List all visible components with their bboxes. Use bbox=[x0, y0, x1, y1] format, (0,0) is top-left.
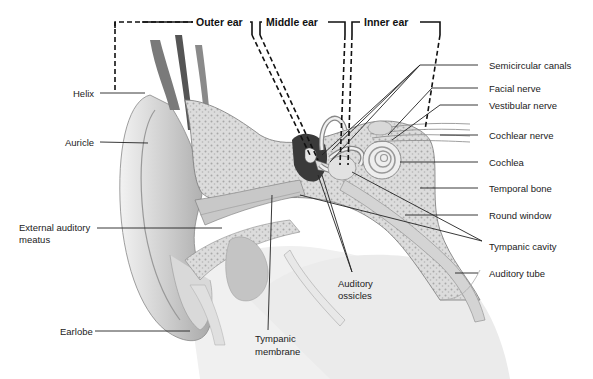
section-label-middle-ear: Middle ear bbox=[264, 16, 320, 28]
label-round-window: Round window bbox=[489, 210, 551, 221]
ear-anatomy-diagram: Outer ear Middle ear Inner ear Helix Aur… bbox=[0, 0, 593, 379]
label-cochlear-nerve: Cochlear nerve bbox=[489, 130, 553, 141]
section-label-outer-ear: Outer ear bbox=[194, 16, 245, 28]
label-auditory-ossicles-line2: ossicles bbox=[338, 290, 372, 301]
label-external-auditory-meatus-line2: meatus bbox=[19, 234, 50, 245]
label-external-auditory-meatus-line1: External auditory bbox=[19, 222, 90, 233]
label-auditory-tube: Auditory tube bbox=[489, 268, 545, 279]
cochlea-shape bbox=[363, 141, 401, 179]
label-earlobe: Earlobe bbox=[60, 326, 93, 337]
label-auditory-ossicles-line1: Auditory bbox=[338, 278, 373, 289]
section-label-inner-ear: Inner ear bbox=[362, 16, 410, 28]
label-tympanic-membrane-line2: membrane bbox=[255, 346, 300, 357]
label-facial-nerve: Facial nerve bbox=[489, 83, 541, 94]
label-vestibular-nerve: Vestibular nerve bbox=[489, 100, 557, 111]
label-tympanic-membrane-line1: Tympanic bbox=[255, 333, 296, 344]
label-helix: Helix bbox=[73, 88, 94, 99]
label-tympanic-cavity: Tympanic cavity bbox=[489, 241, 557, 252]
label-cochlea: Cochlea bbox=[489, 157, 524, 168]
label-semicircular-canals: Semicircular canals bbox=[489, 60, 571, 71]
label-auricle: Auricle bbox=[65, 137, 94, 148]
label-temporal-bone: Temporal bone bbox=[489, 183, 552, 194]
